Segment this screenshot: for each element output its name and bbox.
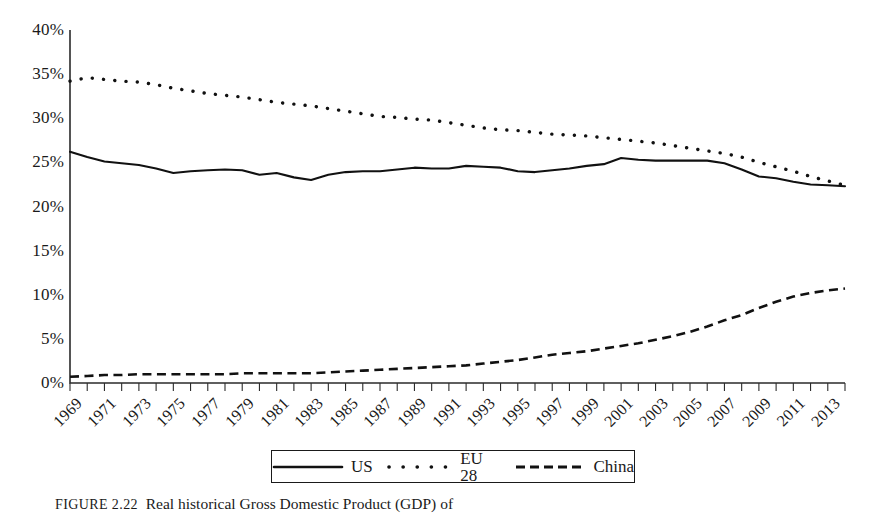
legend-item-eu-28: EU 28 bbox=[386, 450, 502, 484]
dashed-line-icon bbox=[514, 461, 586, 473]
caption-number: 2.22 bbox=[112, 497, 138, 512]
legend-label-china: China bbox=[593, 458, 634, 475]
caption-tag: FIGURE bbox=[55, 497, 108, 512]
solid-line-icon bbox=[272, 461, 344, 473]
caption-text: Real historical Gross Domestic Product (… bbox=[146, 495, 453, 512]
legend-item-china: China bbox=[514, 458, 634, 475]
dotted-line-icon bbox=[386, 461, 453, 473]
legend-label-eu-28: EU 28 bbox=[460, 450, 501, 484]
figure-caption: FIGURE 2.22 Real historical Gross Domest… bbox=[55, 494, 855, 514]
chart-legend: US EU 28 China bbox=[271, 450, 635, 483]
legend-item-us: US bbox=[272, 458, 373, 475]
legend-label-us: US bbox=[351, 458, 373, 475]
